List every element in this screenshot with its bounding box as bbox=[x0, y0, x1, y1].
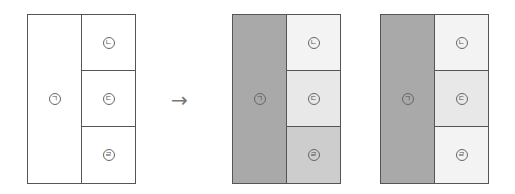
label-giyeok: ㄱ bbox=[254, 93, 266, 105]
region-digeut: ㄷ bbox=[435, 71, 488, 127]
label-giyeok: ㄱ bbox=[402, 93, 414, 105]
label-rieul: ㄹ bbox=[456, 149, 468, 161]
region-giyeok: ㄱ bbox=[233, 15, 287, 183]
arrow-right-icon: → bbox=[171, 88, 188, 112]
region-digeut: ㄷ bbox=[82, 71, 135, 127]
region-nieun: ㄴ bbox=[287, 15, 340, 71]
region-digeut: ㄷ bbox=[287, 71, 340, 127]
label-digeut: ㄷ bbox=[456, 93, 468, 105]
label-nieun: ㄴ bbox=[103, 37, 115, 49]
region-giyeok: ㄱ bbox=[381, 15, 435, 183]
label-digeut: ㄷ bbox=[103, 93, 115, 105]
label-digeut: ㄷ bbox=[308, 93, 320, 105]
region-rieul: ㄹ bbox=[435, 127, 488, 183]
region-nieun: ㄴ bbox=[82, 15, 135, 71]
panel-colored-2: ㄱ ㄴ ㄷ ㄹ bbox=[380, 14, 489, 184]
panel-original: ㄱ ㄴ ㄷ ㄹ bbox=[27, 14, 136, 184]
region-rieul: ㄹ bbox=[82, 127, 135, 183]
label-rieul: ㄹ bbox=[308, 149, 320, 161]
label-nieun: ㄴ bbox=[456, 37, 468, 49]
label-nieun: ㄴ bbox=[308, 37, 320, 49]
region-giyeok: ㄱ bbox=[28, 15, 82, 183]
panel-colored-1: ㄱ ㄴ ㄷ ㄹ bbox=[232, 14, 341, 184]
label-giyeok: ㄱ bbox=[49, 93, 61, 105]
region-rieul: ㄹ bbox=[287, 127, 340, 183]
region-nieun: ㄴ bbox=[435, 15, 488, 71]
label-rieul: ㄹ bbox=[103, 149, 115, 161]
